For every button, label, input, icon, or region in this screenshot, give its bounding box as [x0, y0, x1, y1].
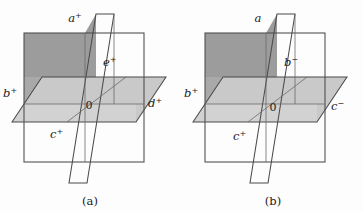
label-vertical-right-a: e+ — [103, 55, 117, 69]
plane-diagram-a: a+ e+ b+ d+ c+ 0 (a) — [0, 0, 181, 213]
caption-a: (a) — [82, 194, 98, 208]
label-front-bottom-a: c+ — [50, 127, 63, 141]
label-slant-top-a: a+ — [68, 11, 82, 25]
panel-b: a b− b+ c− c+ 0 (b) — [181, 0, 362, 213]
plane-diagram-b: a b− b+ c− c+ 0 (b) — [181, 0, 362, 213]
panel-a: a+ e+ b+ d+ c+ 0 (a) — [0, 0, 181, 213]
label-horiz-left-a: b+ — [3, 86, 17, 100]
figure-root: a+ e+ b+ d+ c+ 0 (a) — [0, 0, 363, 213]
horizontal-plane-front-fill-b — [193, 104, 317, 122]
caption-b: (b) — [265, 194, 281, 208]
label-horiz-right-a: d+ — [148, 96, 162, 110]
label-horiz-left-b: b+ — [184, 86, 198, 100]
horizontal-plane-front-fill-a — [12, 104, 136, 122]
label-front-bottom-b: c+ — [233, 129, 246, 143]
label-horiz-right-b: c− — [331, 99, 344, 113]
label-origin-a: 0 — [86, 99, 93, 112]
label-vertical-right-b: b− — [284, 55, 298, 69]
label-origin-b: 0 — [270, 101, 277, 114]
label-slant-top-b: a — [255, 11, 262, 25]
